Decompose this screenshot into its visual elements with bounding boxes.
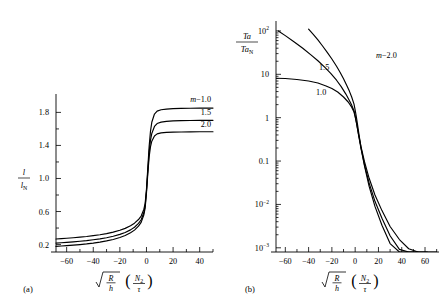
x-tick-label-a: 0 [144, 257, 148, 266]
y-tick-mantissa-b: 10 [258, 27, 266, 36]
y-axis-label-a: llN [18, 168, 30, 191]
figure-root: −60−40−20020400.20.61.01.41.8m−1.01.52.0… [0, 0, 447, 301]
x-tick-label-b: −60 [279, 257, 292, 266]
curve-label-a-1: 1.5 [201, 108, 211, 117]
y-tick-label-b: 1 [265, 114, 269, 123]
x-tick-label-a: 20 [169, 257, 177, 266]
y-tick-label-a: 0.2 [39, 241, 49, 250]
curve-a-m1-5 [56, 120, 213, 243]
x-label-b-lparen: ( [351, 272, 356, 290]
y-axis-label-a-den-sub: N [23, 185, 28, 191]
curve-label-b-text: m−2.0 [376, 51, 397, 60]
panel-b: −60−40−2002040601021010.110−210−3m−2.01.… [224, 0, 447, 301]
curves-group-b [276, 29, 437, 252]
curve-label-a-text: 2.0 [201, 120, 211, 129]
curve-label-a-text: 1.5 [201, 108, 211, 117]
x-label-a-rparen: ) [147, 272, 152, 290]
x-label-a-den1: h [109, 284, 113, 293]
panel-b-curves [276, 29, 437, 252]
panel-a: −60−40−20020400.20.61.01.41.8m−1.01.52.0… [0, 0, 223, 301]
curve-label-a-0: m−1.0 [190, 95, 211, 104]
x-tick-label-b: 60 [421, 257, 429, 266]
y-axis-label-b: TaTaN [236, 32, 258, 55]
x-label-a-num2-sub: 2 [140, 278, 143, 284]
x-tick-label-a: −60 [60, 257, 73, 266]
panel-a-text: −60−40−20020400.20.61.01.41.8m−1.01.52.0… [18, 95, 211, 294]
y-axis-label-b-den-sub: N [249, 49, 254, 55]
y-tick-exponent-b: 2 [266, 25, 269, 31]
x-label-b-den2: τ [364, 285, 368, 294]
curve-label-b-text: 1.5 [319, 63, 329, 72]
panel-a-curves [56, 108, 213, 246]
y-tick-mantissa-b: 10 [255, 244, 263, 253]
curve-label-b-value: −2.0 [382, 51, 397, 60]
y-tick-exponent-b: −3 [263, 242, 269, 248]
curve-a-m2 [56, 132, 213, 247]
x-tick-label-b: −20 [325, 257, 338, 266]
y-axis-label-b-num: Ta [243, 32, 251, 41]
y-axis-label-a-num: l [23, 168, 26, 177]
y-tick-mantissa-b: 10 [255, 200, 263, 209]
panel-b-axes [271, 21, 439, 252]
y-tick-label-a: 1.4 [39, 141, 49, 150]
curve-b-m1 [276, 78, 437, 252]
x-tick-label-b: −40 [302, 257, 315, 266]
y-tick-label-b: 0.1 [259, 157, 269, 166]
x-label-a-lparen: ( [125, 272, 130, 290]
y-axis-label-a-den: lN [21, 181, 28, 191]
y-tick-label-a: 0.6 [39, 208, 49, 217]
panel-tag-b: (b) [245, 284, 255, 294]
x-axis-label-b: Rh(N2τ) [322, 272, 379, 294]
x-label-b-den1: h [335, 284, 339, 293]
curve-label-a-2: 2.0 [201, 120, 211, 129]
curve-label-b-0: m−2.0 [376, 51, 397, 60]
curve-a-m1 [56, 108, 213, 239]
curve-label-a-value: −1.0 [196, 95, 211, 104]
x-tick-label-b: 40 [398, 257, 406, 266]
y-axis-label-b-den-main: Ta [241, 45, 249, 54]
y-tick-label-b: 102 [258, 25, 269, 36]
x-label-a-num2: N2 [134, 274, 143, 284]
x-label-b-num2: N2 [360, 274, 369, 284]
curve-label-b-2: 1.0 [316, 88, 326, 97]
x-tick-label-b: 0 [353, 257, 357, 266]
panel-tag-a: (a) [23, 284, 33, 294]
curve-label-b-1: 1.5 [319, 63, 329, 72]
y-tick-exponent-b: −2 [263, 199, 269, 205]
x-label-a-num1: R [108, 274, 114, 283]
x-axis-label-a: Rh(N2τ) [96, 272, 153, 294]
panel-a-canvas: −60−40−20020400.20.61.01.41.8m−1.01.52.0… [0, 0, 223, 301]
y-axis-label-b-den: TaN [241, 45, 254, 55]
x-tick-label-a: −20 [113, 257, 126, 266]
curve-label-a-text: m−1.0 [190, 95, 211, 104]
y-tick-label-b: 10 [261, 70, 269, 79]
y-tick-label-a: 1.0 [39, 174, 49, 183]
x-label-b-rparen: ) [373, 272, 378, 290]
panel-b-canvas: −60−40−2002040601021010.110−210−3m−2.01.… [224, 0, 447, 301]
x-tick-label-a: −40 [87, 257, 100, 266]
x-label-b-num1: R [334, 274, 340, 283]
x-tick-label-a: 40 [196, 257, 204, 266]
y-tick-label-b: 10−3 [255, 242, 269, 253]
curve-label-b-text: 1.0 [316, 88, 326, 97]
x-label-a-den2: τ [138, 285, 142, 294]
x-tick-label-b: 20 [374, 257, 382, 266]
curve-b-m1-5 [278, 31, 427, 252]
y-tick-label-a: 1.8 [39, 108, 49, 117]
y-tick-label-b: 10−2 [255, 199, 269, 210]
x-label-b-num2-sub: 2 [366, 278, 369, 284]
panel-b-text: −60−40−2002040601021010.110−210−3m−2.01.… [236, 25, 429, 294]
